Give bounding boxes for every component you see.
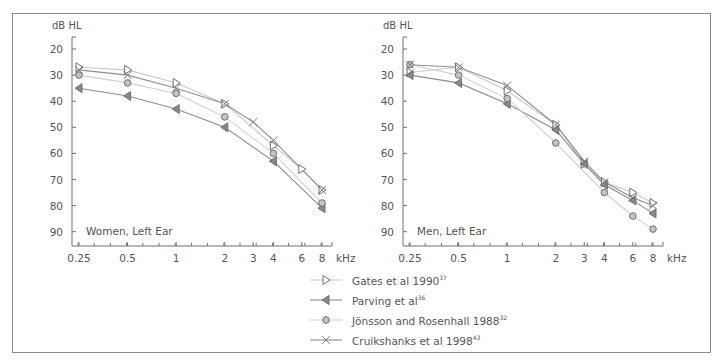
series-line	[79, 70, 322, 190]
series-line	[410, 65, 653, 229]
y-tick-label: 80	[381, 200, 394, 212]
y-tick-label: 90	[50, 226, 63, 238]
y-tick-label: 70	[381, 174, 394, 186]
cross-icon	[310, 333, 342, 347]
y-tick-label: 20	[50, 43, 63, 55]
axes	[403, 37, 663, 246]
x-tick-label: 4	[270, 252, 277, 264]
x-axis-label: kHz	[336, 252, 356, 264]
x-tick-label: 2	[552, 252, 559, 264]
y-tick-label: 60	[50, 147, 63, 159]
legend-label-gates: Gates et al 1990	[352, 275, 439, 287]
circle-markers	[407, 61, 657, 232]
x-tick-label: 8	[650, 252, 657, 264]
y-tick-label: 40	[50, 95, 63, 107]
x-tick-label: 1	[504, 252, 511, 264]
x-tick-label: 6	[629, 252, 636, 264]
triangle-right-markers	[76, 63, 326, 195]
x-tick-label: 2	[221, 252, 228, 264]
legend-label-jonsson: Jönsson and Rosenhall 1988	[352, 315, 499, 327]
y-tick-label: 60	[381, 147, 394, 159]
triangle-right-markers	[407, 63, 657, 208]
legend-label-parving: Parving et al	[352, 295, 418, 307]
legend-label-cruikshanks: Cruikshanks et al 1998	[352, 335, 473, 347]
y-tick-label: 90	[381, 226, 394, 238]
triangle-left-markers	[406, 71, 656, 218]
x-axis-label: kHz	[667, 252, 687, 264]
series-line	[79, 88, 322, 208]
x-tick-label: 3	[581, 252, 588, 264]
series-line	[410, 67, 653, 203]
x-tick-label: 0.5	[119, 252, 136, 264]
y-tick-label: 20	[381, 43, 394, 55]
legend: Gates et al 199037 Parving et al36 Jönss…	[310, 270, 570, 350]
triangle-right-icon	[310, 273, 342, 287]
chart-men-left-ear: dB HL20304050607080900.250.5123468kHzMen…	[381, 20, 687, 264]
legend-item-cruikshanks: Cruikshanks et al 199843	[310, 330, 570, 350]
chart-title: Men, Left Ear	[417, 225, 487, 237]
y-axis-label: dB HL	[52, 20, 82, 31]
x-tick-label: 0.5	[450, 252, 467, 264]
x-tick-label: 4	[601, 252, 608, 264]
circle-markers	[76, 72, 326, 206]
y-tick-label: 50	[381, 121, 394, 133]
y-tick-label: 40	[381, 95, 394, 107]
triangle-left-markers	[75, 84, 325, 213]
cross-markers	[75, 66, 326, 194]
series-line	[410, 65, 653, 206]
axes	[72, 37, 332, 246]
legend-item-gates: Gates et al 199037	[310, 270, 570, 290]
x-tick-label: 0.25	[67, 252, 90, 264]
series-line	[410, 75, 653, 213]
chart-title: Women, Left Ear	[86, 225, 173, 237]
circle-icon	[310, 313, 342, 327]
x-tick-label: 1	[173, 252, 180, 264]
y-tick-label: 30	[50, 69, 63, 81]
y-tick-label: 30	[381, 69, 394, 81]
x-tick-label: 0.25	[398, 252, 421, 264]
y-tick-label: 50	[50, 121, 63, 133]
chart-women-left-ear: dB HL20304050607080900.250.5123468kHzWom…	[50, 20, 356, 264]
x-tick-label: 6	[298, 252, 305, 264]
series-line	[79, 67, 322, 190]
triangle-left-icon	[310, 293, 342, 307]
x-tick-label: 8	[319, 252, 326, 264]
x-tick-label: 3	[250, 252, 257, 264]
y-tick-label: 80	[50, 200, 63, 212]
legend-item-jonsson: Jönsson and Rosenhall 198832	[310, 310, 570, 330]
y-axis-label: dB HL	[383, 20, 413, 31]
y-tick-label: 70	[50, 174, 63, 186]
legend-item-parving: Parving et al36	[310, 290, 570, 310]
